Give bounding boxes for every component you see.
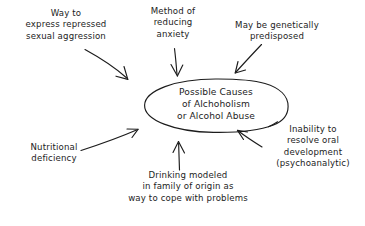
node-label-nutrition: Nutritional deficiency — [10, 142, 98, 165]
node-label-anxiety: Method of reducing anxiety — [131, 6, 215, 40]
node-label-aggression: Way to express repressed sexual aggressi… — [6, 8, 126, 42]
arrow-oral — [238, 130, 263, 147]
node-label-genetic: May be genetically predisposed — [216, 20, 338, 43]
node-label-modeled: Drinking modeled in family of origin as … — [104, 170, 272, 204]
node-label-oral: Inability to resolve oral development (p… — [264, 124, 362, 170]
arrow-modeled — [173, 142, 185, 171]
arrow-anxiety — [171, 49, 183, 77]
center-node-label: Possible Causes of Alchoholism or Alcoho… — [150, 86, 282, 122]
concept-map-canvas: .ink { fill: none; stroke: #1c1c1c; stro… — [0, 0, 365, 226]
arrow-genetic — [235, 45, 261, 74]
arrow-aggression — [85, 50, 128, 80]
